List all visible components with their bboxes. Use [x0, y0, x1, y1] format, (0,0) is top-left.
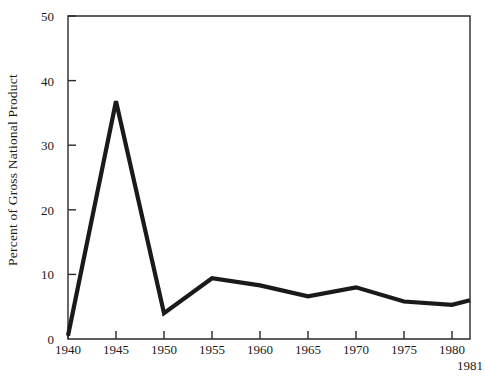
y-axis-ticks [68, 16, 76, 274]
y-axis-tick-label: 10 [30, 268, 54, 281]
y-axis-tick-label: 50 [30, 10, 54, 23]
x-axis-tick-label: 1980 [422, 342, 482, 357]
data-series-line [68, 101, 470, 336]
x-axis-end-label: 1981 [440, 358, 485, 373]
y-axis-tick-label: 30 [30, 139, 54, 152]
axis-frame [68, 16, 470, 339]
plot-area [0, 0, 485, 390]
x-axis-ticks [68, 331, 452, 339]
y-axis-tick-labels: 01020304050 [18, 0, 54, 390]
y-axis-tick-label: 40 [30, 74, 54, 87]
line-chart: Percent of Gross National Product 010203… [0, 0, 485, 390]
y-axis-tick-label: 20 [30, 203, 54, 216]
